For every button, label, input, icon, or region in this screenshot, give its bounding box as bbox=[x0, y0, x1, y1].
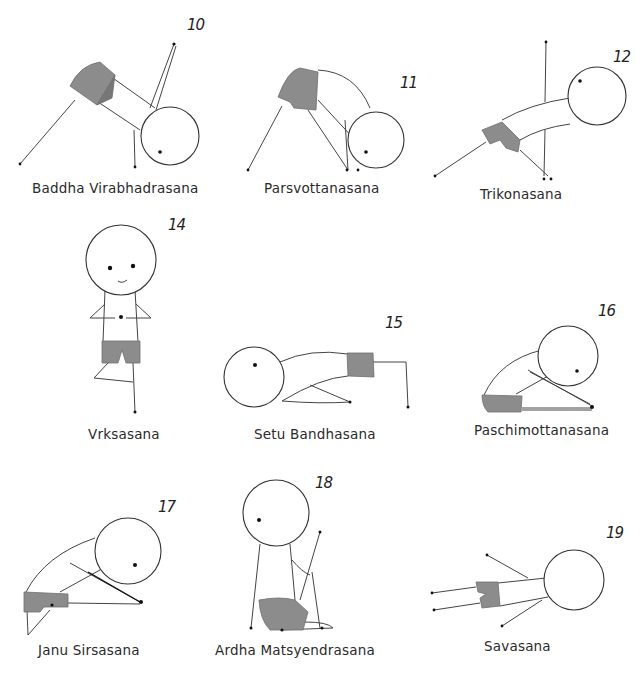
pose-name: Vrksasana bbox=[88, 426, 160, 442]
pose-card-ardha-matsyendrasana: 18 Ardha Matsyendrasana bbox=[200, 460, 410, 674]
pose-card-paschimottanasana: 16 Paschimottanasana bbox=[460, 300, 643, 450]
pose-name: Parsvottanasana bbox=[264, 180, 379, 196]
figure-vrksasana-icon bbox=[60, 200, 210, 450]
pose-card-setu-bandhasana: 15 Setu Bandhasana bbox=[210, 300, 430, 450]
pose-number: 15 bbox=[385, 314, 402, 332]
pose-name: Janu Sirsasana bbox=[38, 642, 140, 658]
figure-trikonasana-icon bbox=[420, 0, 643, 210]
pose-number: 11 bbox=[400, 74, 417, 92]
pose-name: Paschimottanasana bbox=[474, 422, 609, 438]
pose-name: Ardha Matsyendrasana bbox=[215, 642, 375, 658]
pose-number: 10 bbox=[187, 16, 204, 34]
pose-number: 12 bbox=[613, 48, 630, 66]
pose-name: Setu Bandhasana bbox=[254, 426, 376, 442]
pose-card-janu-sirsasana: 17 Janu Sirsasana bbox=[0, 460, 200, 674]
pose-card-parsvottanasana: 11 Parsvottanasana bbox=[230, 0, 430, 200]
pose-number: 19 bbox=[606, 524, 623, 542]
pose-card-savasana: 19 Savasana bbox=[410, 480, 643, 674]
pose-name: Savasana bbox=[484, 638, 551, 654]
figure-parsvottanasana-icon bbox=[230, 0, 430, 200]
pose-number: 16 bbox=[598, 302, 615, 320]
pose-name: Trikonasana bbox=[480, 186, 562, 202]
pose-name: Baddha Virabhadrasana bbox=[32, 180, 198, 196]
pose-number: 17 bbox=[158, 498, 175, 516]
pose-card-trikonasana: 12 Trikonasana bbox=[420, 0, 643, 210]
pose-number: 18 bbox=[315, 474, 332, 492]
pose-card-baddha-virabhadrasana: 10 Baddha Virabhadrasana bbox=[0, 0, 220, 200]
pose-number: 14 bbox=[168, 216, 185, 234]
pose-card-vrksasana: 14 Vrksasana bbox=[60, 200, 210, 450]
